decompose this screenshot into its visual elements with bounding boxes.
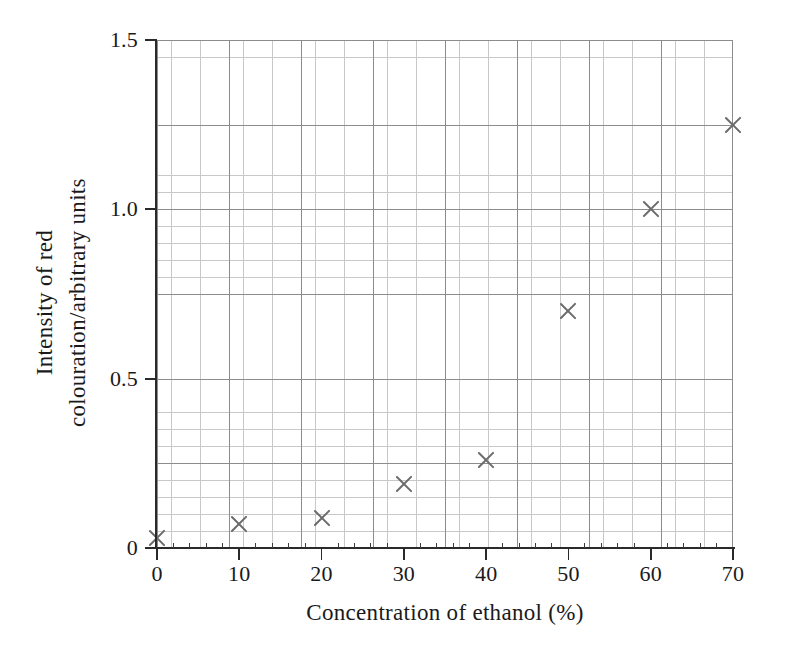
x-tick-label-text: 0 <box>151 561 162 586</box>
x-tick-label-text: 50 <box>557 561 579 586</box>
y-tick-1.5 <box>145 39 157 41</box>
x-tick-minor <box>551 543 552 548</box>
x-tick-label-70: 70 <box>703 563 763 585</box>
data-point-marker <box>393 473 415 495</box>
x-tick-minor <box>272 543 273 548</box>
x-tick-minor <box>222 543 223 548</box>
x-tick-10 <box>238 549 240 560</box>
y-axis-title-line-2: colouration/arbitrary units <box>62 73 95 533</box>
x-tick-20 <box>321 549 323 560</box>
data-point-marker <box>228 513 250 535</box>
x-tick-minor <box>305 543 306 548</box>
y-tick-label-1.5: 1.5 <box>56 29 138 51</box>
x-tick-minor <box>584 543 585 548</box>
x-tick-label-text: 40 <box>475 561 497 586</box>
x-tick-label-text: 70 <box>722 561 744 586</box>
scatter-chart-figure: 00.51.01.5 010203040506070 Concentration… <box>0 0 787 656</box>
x-tick-label-50: 50 <box>538 563 598 585</box>
x-tick-60 <box>650 549 652 560</box>
x-tick-minor <box>469 543 470 548</box>
x-tick-minor <box>716 543 717 548</box>
data-point-marker <box>557 300 579 322</box>
y-axis-line <box>155 39 157 549</box>
x-tick-minor <box>288 543 289 548</box>
x-tick-minor <box>255 543 256 548</box>
x-tick-label-40: 40 <box>456 563 516 585</box>
x-tick-label-10: 10 <box>209 563 269 585</box>
x-tick-70 <box>732 549 734 560</box>
x-tick-40 <box>485 549 487 560</box>
x-tick-minor <box>667 543 668 548</box>
x-tick-minor <box>535 543 536 548</box>
x-tick-0 <box>156 549 158 560</box>
y-axis-title: Intensity of red colouration/arbitrary u… <box>29 73 94 533</box>
plot-area <box>157 40 733 548</box>
x-tick-label-text: 30 <box>393 561 415 586</box>
y-tick-label-0: 0 <box>56 537 138 559</box>
x-tick-minor <box>502 543 503 548</box>
x-axis-line <box>155 547 735 549</box>
x-tick-minor <box>683 543 684 548</box>
x-tick-minor <box>189 543 190 548</box>
data-point-marker <box>475 449 497 471</box>
x-tick-label-60: 60 <box>621 563 681 585</box>
x-tick-minor <box>700 543 701 548</box>
x-tick-minor <box>173 543 174 548</box>
x-tick-label-text: 60 <box>640 561 662 586</box>
y-tick-1.0 <box>145 208 157 210</box>
x-tick-minor <box>601 543 602 548</box>
x-tick-label-text: 10 <box>228 561 250 586</box>
x-tick-minor <box>453 543 454 548</box>
y-tick-label-text: 1.5 <box>56 29 138 51</box>
x-tick-minor <box>354 543 355 548</box>
x-tick-label-text: 20 <box>310 561 332 586</box>
y-tick-label-text: 0 <box>56 537 138 559</box>
y-axis-title-line-1: Intensity of red <box>29 73 62 533</box>
data-point-marker <box>311 507 333 529</box>
data-point-marker <box>640 198 662 220</box>
x-axis-title: Concentration of ethanol (%) <box>157 600 733 626</box>
x-tick-minor <box>519 543 520 548</box>
x-tick-minor <box>206 543 207 548</box>
x-tick-label-30: 30 <box>374 563 434 585</box>
x-tick-label-0: 0 <box>127 563 187 585</box>
x-tick-minor <box>338 543 339 548</box>
x-tick-30 <box>403 549 405 560</box>
y-tick-0.5 <box>145 378 157 380</box>
x-tick-minor <box>387 543 388 548</box>
major-gridlines <box>157 40 733 548</box>
data-point-marker <box>722 114 744 136</box>
x-tick-minor <box>617 543 618 548</box>
x-tick-50 <box>568 549 570 560</box>
x-tick-minor <box>436 543 437 548</box>
x-tick-minor <box>370 543 371 548</box>
x-tick-label-20: 20 <box>292 563 352 585</box>
x-tick-minor <box>634 543 635 548</box>
x-tick-minor <box>420 543 421 548</box>
